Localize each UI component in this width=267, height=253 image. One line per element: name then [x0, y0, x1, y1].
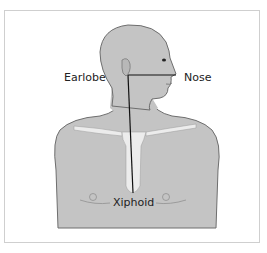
xiphoid-label: Xiphoid	[113, 197, 154, 208]
eye	[162, 58, 166, 61]
nose-label: Nose	[184, 72, 211, 83]
earlobe-label: Earlobe	[64, 72, 106, 83]
torso-illustration	[0, 0, 267, 253]
